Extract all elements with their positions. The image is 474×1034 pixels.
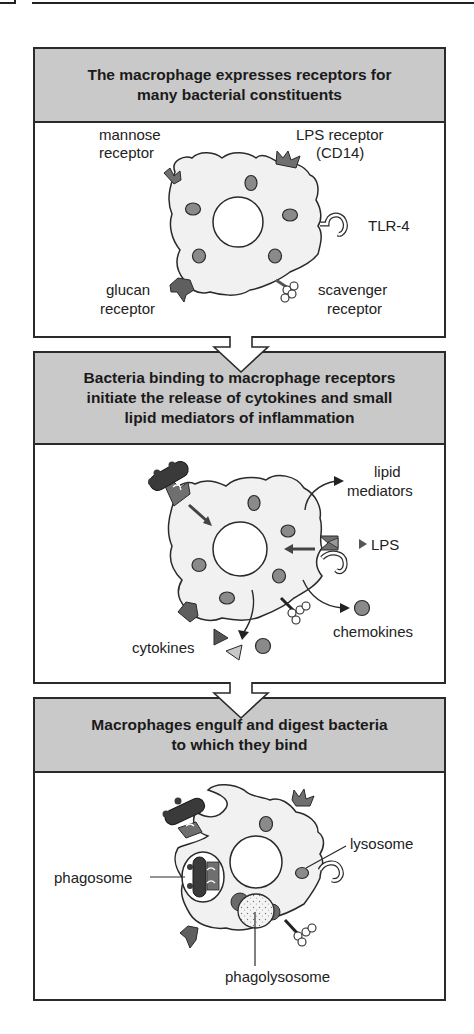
label-lps-receptor: LPS receptor (296, 126, 384, 143)
label-phagosome: phagosome (54, 869, 132, 886)
label-phagolysosome: phagolysosome (225, 968, 330, 985)
cytokine-light-icon (226, 645, 242, 660)
nucleus (230, 836, 282, 888)
label-cd14: (CD14) (316, 144, 364, 161)
phagosome-icon (182, 852, 224, 902)
label-lysosome: lysosome (350, 835, 413, 852)
label-scavenger: scavenger (318, 281, 387, 298)
scavenger-receptor-icon (276, 280, 298, 302)
label-mannose: mannose (99, 126, 161, 143)
glucan-receptor-icon (178, 602, 198, 622)
label-scavenger-receptor: receptor (327, 300, 382, 317)
cytokine-round-icon (256, 639, 271, 654)
glucan-receptor-icon (180, 926, 198, 948)
label-lipid: lipid (374, 463, 401, 480)
flow-arrow-1 (214, 336, 268, 372)
label-lps: LPS (371, 536, 399, 553)
glucan-receptor-icon (170, 278, 194, 302)
lysosome-granule (283, 209, 298, 221)
label-tlr4: TLR-4 (368, 217, 410, 234)
nucleus (213, 522, 267, 576)
nucleus (213, 197, 263, 247)
label-glucan: glucan (106, 281, 150, 298)
macrophage-cell-1 (164, 151, 345, 302)
lysosome-granule (186, 203, 201, 215)
lysosome-icon (296, 868, 309, 879)
label-cytokines: cytokines (132, 639, 195, 656)
macrophage-cell-3 (150, 785, 346, 966)
lps-molecule-icon (359, 539, 367, 549)
label-mannose-receptor: receptor (99, 144, 154, 161)
scavenger-receptor-icon (285, 920, 316, 946)
lysosome-granule (193, 249, 206, 263)
diagram-artwork: mannose receptor LPS receptor (CD14) TLR… (0, 0, 474, 1034)
flow-arrow-2 (214, 682, 268, 718)
lysosome-granule (245, 176, 257, 191)
label-chemokines: chemokines (333, 623, 413, 640)
scavenger-receptor-icon (281, 598, 310, 624)
label-glucan-receptor: receptor (100, 300, 155, 317)
tlr4-icon (320, 863, 341, 880)
chemokine-icon (355, 601, 370, 616)
lysosome-granule (269, 249, 282, 263)
label-mediators: mediators (347, 482, 413, 499)
lps-receptor-icon (292, 789, 314, 806)
cytokine-dark-icon (214, 629, 228, 645)
